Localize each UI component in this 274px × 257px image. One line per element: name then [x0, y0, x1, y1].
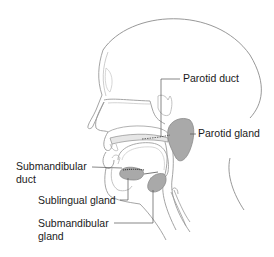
submandibular-duct-connector: [144, 172, 158, 174]
label-submandibular-gland-line1: Submandibular: [38, 217, 109, 230]
neck-back-outline: [229, 158, 244, 210]
sphenoid: [158, 95, 172, 115]
skull-base-inner: [108, 103, 150, 104]
label-submandibular-duct-line2: duct: [16, 173, 36, 186]
pharynx-wall-inner: [163, 142, 176, 230]
leader-submandibular-gland: [114, 190, 153, 223]
leader-submandibular-duct: [92, 167, 122, 168]
trachea-1: [171, 192, 186, 226]
parotid-gland: [168, 118, 194, 160]
tongue-inner: [122, 147, 165, 170]
label-submandibular-duct-line1: Submandibular: [16, 160, 87, 173]
upper-teeth: [110, 144, 118, 151]
leader-sublingual-gland: [120, 178, 128, 200]
sinus-outline: [105, 68, 112, 92]
label-parotid-gland: Parotid gland: [198, 127, 260, 140]
hard-palate: [110, 134, 168, 144]
salivary-gland-diagram: Parotid duct Parotid gland Submandibular…: [0, 0, 274, 257]
label-parotid-duct: Parotid duct: [183, 72, 239, 85]
label-sublingual-gland: Sublingual gland: [38, 194, 116, 207]
frontal-bone: [88, 50, 104, 129]
label-submandibular-gland-line2: gland: [38, 230, 64, 243]
lower-teeth: [112, 155, 120, 164]
lower-lip: [103, 152, 114, 169]
